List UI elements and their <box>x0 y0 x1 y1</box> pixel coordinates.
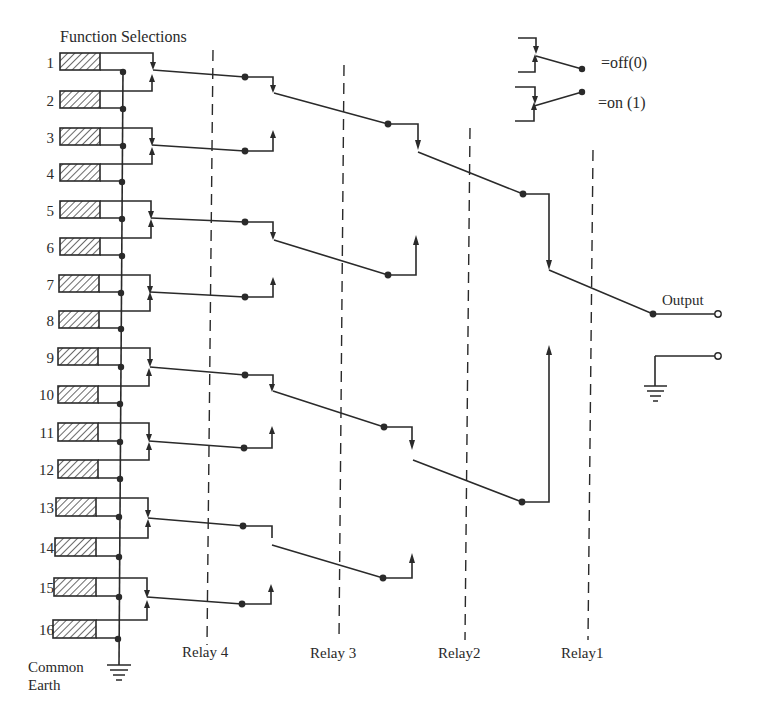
output-label: Output <box>662 292 705 308</box>
selector-box-13[interactable] <box>56 498 96 516</box>
selector-box-4[interactable] <box>60 164 100 181</box>
input-label-3: 3 <box>47 130 55 146</box>
input-label-13: 13 <box>39 500 54 516</box>
selector-box-9[interactable] <box>58 348 98 365</box>
legend-off-label: =off(0) <box>601 54 647 72</box>
legend-off-symbol <box>515 38 582 121</box>
input-selectors <box>53 53 100 638</box>
input-label-8: 8 <box>47 313 55 329</box>
input-labels: 1 2 3 4 5 6 7 8 9 10 11 12 13 14 15 16 <box>39 55 55 638</box>
relay2-label: Relay2 <box>438 645 481 661</box>
input-label-11: 11 <box>40 425 54 441</box>
relay3-label: Relay 3 <box>310 645 356 661</box>
selector-box-3[interactable] <box>60 128 100 145</box>
common-earth-label-line1: Common <box>28 659 84 675</box>
selector-box-7[interactable] <box>59 275 99 292</box>
relay4-label: Relay 4 <box>182 644 229 660</box>
selector-box-1[interactable] <box>60 53 100 70</box>
relay4-boundary <box>207 50 213 645</box>
relay-tree-diagram: Function Selections 1 2 3 4 5 6 7 8 9 10… <box>0 0 757 721</box>
output-terminal[interactable] <box>715 311 721 317</box>
selector-box-11[interactable] <box>58 423 98 441</box>
relay1-boundary <box>588 150 593 640</box>
input-label-16: 16 <box>39 622 55 638</box>
relay1-label: Relay1 <box>561 645 604 661</box>
selector-box-10[interactable] <box>58 386 98 403</box>
contact-arrows <box>144 62 552 608</box>
selector-box-2[interactable] <box>60 91 100 108</box>
legend-on-label: =on (1) <box>598 94 646 112</box>
input-label-14: 14 <box>39 540 55 556</box>
ground-terminal[interactable] <box>715 353 721 359</box>
relay3-boundary <box>339 65 344 640</box>
selector-box-14[interactable] <box>55 538 96 556</box>
input-label-4: 4 <box>47 166 55 182</box>
input-label-7: 7 <box>47 277 55 293</box>
input-label-2: 2 <box>47 93 55 109</box>
input-label-10: 10 <box>39 387 54 403</box>
input-label-6: 6 <box>47 240 55 256</box>
selector-box-15[interactable] <box>54 578 96 596</box>
input-label-1: 1 <box>47 55 55 71</box>
selector-box-8[interactable] <box>59 311 99 328</box>
selector-box-6[interactable] <box>60 238 100 255</box>
input-label-15: 15 <box>39 580 54 596</box>
title-function-selections: Function Selections <box>60 28 187 45</box>
relay2-boundary <box>465 128 470 640</box>
input-label-5: 5 <box>47 203 55 219</box>
selector-box-5[interactable] <box>60 201 100 218</box>
legend: =off(0) =on (1) <box>515 38 647 121</box>
input-label-12: 12 <box>39 462 54 478</box>
common-earth-label-line2: Earth <box>28 677 61 693</box>
selector-box-12[interactable] <box>58 460 98 478</box>
junction-dots <box>115 69 657 642</box>
wiring <box>96 53 715 680</box>
selector-box-16[interactable] <box>53 620 96 638</box>
input-label-9: 9 <box>47 350 55 366</box>
